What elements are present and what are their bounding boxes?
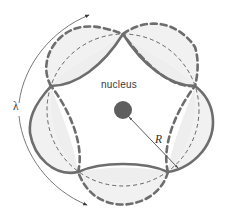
figure-root: nucleus R λ bbox=[0, 0, 240, 218]
wave-outer-shade bbox=[46, 26, 123, 86]
wave-outer-shade bbox=[123, 24, 198, 86]
wavelength-label: λ bbox=[13, 101, 19, 113]
nucleus-label: nucleus bbox=[101, 80, 137, 90]
standing-wave-orbit-diagram bbox=[0, 0, 240, 218]
radius-leader-line bbox=[129, 117, 178, 168]
radius-label: R bbox=[155, 134, 162, 146]
nucleus-dot bbox=[114, 101, 132, 119]
